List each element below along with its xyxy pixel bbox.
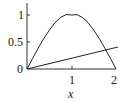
arch-curve <box>27 15 116 69</box>
y-tick-label-0: 0 <box>17 62 23 76</box>
straight-line <box>27 47 118 69</box>
y-tick-label-1: 1 <box>18 8 24 22</box>
x-axis-label: x <box>67 87 74 101</box>
x-tick-label-1: 1 <box>69 73 75 87</box>
chart: 1 0.5 0 1 2 x <box>0 0 121 102</box>
y-tick-label-05: 0.5 <box>8 35 23 49</box>
x-tick-label-2: 2 <box>111 73 117 87</box>
